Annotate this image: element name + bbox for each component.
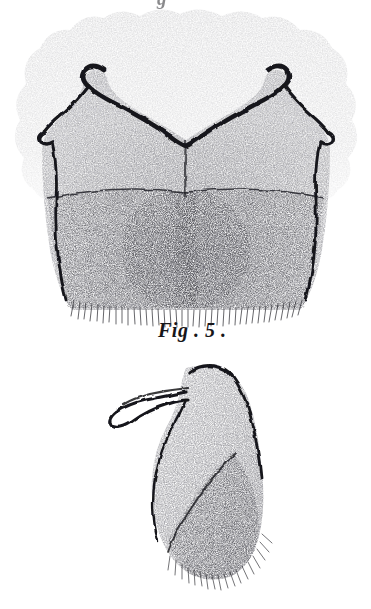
figure-caption-fig5: Fig . 5 . [158, 319, 226, 342]
upper-lower-segment [40, 186, 340, 316]
figure-upper [0, 0, 371, 327]
plate-artwork [0, 0, 371, 609]
median-ridge [185, 140, 186, 196]
engraving-plate: g [0, 0, 371, 609]
figure-lower [110, 360, 280, 590]
